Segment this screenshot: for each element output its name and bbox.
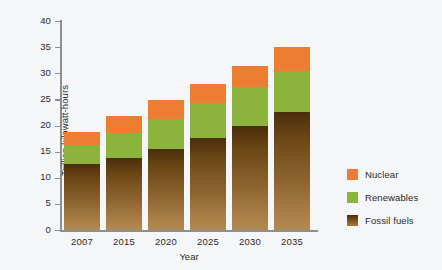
- legend-swatch-icon: [347, 215, 358, 226]
- y-tick-label: 10: [40, 171, 51, 182]
- bar-segment-fossil-fuels: [106, 158, 142, 230]
- bar-2035: [274, 47, 310, 230]
- bar-segment-renewables: [232, 87, 268, 125]
- legend-item-renewables: Renewables: [347, 189, 439, 205]
- y-tick-label: 35: [40, 41, 51, 52]
- y-tick-label: 25: [40, 93, 51, 104]
- legend-label: Nuclear: [365, 169, 398, 180]
- bar-segment-nuclear: [148, 100, 184, 119]
- y-tick-mark: [55, 204, 60, 205]
- x-tick-label-2030: 2030: [227, 236, 273, 247]
- y-tick-mark: [55, 152, 60, 153]
- bar-segment-nuclear: [64, 132, 100, 145]
- bar-segment-nuclear: [274, 47, 310, 71]
- bar-segment-fossil-fuels: [190, 138, 226, 230]
- y-tick-label: 40: [40, 15, 51, 26]
- y-tick-label: 5: [46, 197, 51, 208]
- bar-segment-fossil-fuels: [148, 149, 184, 230]
- bar-2007: [64, 132, 100, 230]
- legend-item-nuclear: Nuclear: [347, 166, 439, 182]
- chart-legend: NuclearRenewablesFossil fuels: [347, 166, 439, 235]
- x-tick-label-2007: 2007: [59, 236, 105, 247]
- y-tick-mark: [55, 21, 60, 22]
- bar-segment-renewables: [274, 71, 310, 112]
- x-tick-label-2035: 2035: [269, 236, 315, 247]
- bar-2025: [190, 84, 226, 230]
- y-axis-title-holder: Trillion kilowatt-hours: [0, 55, 24, 195]
- bar-segment-fossil-fuels: [64, 164, 100, 230]
- x-axis-line: [60, 230, 318, 232]
- y-tick-label: 0: [46, 224, 51, 235]
- bar-segment-renewables: [106, 133, 142, 158]
- bar-2030: [232, 66, 268, 230]
- stacked-bar-chart: Trillion kilowatt-hours 0510152025303540…: [0, 0, 442, 270]
- y-tick-mark: [55, 230, 60, 231]
- x-tick-label-2015: 2015: [101, 236, 147, 247]
- legend-swatch-icon: [347, 169, 358, 180]
- bar-segment-renewables: [190, 103, 226, 138]
- y-tick-mark: [55, 178, 60, 179]
- y-tick-mark: [55, 47, 60, 48]
- x-axis-title: Year: [60, 251, 318, 262]
- y-tick-mark: [55, 99, 60, 100]
- y-tick-label: 15: [40, 145, 51, 156]
- bar-segment-fossil-fuels: [274, 112, 310, 230]
- bar-segment-nuclear: [106, 116, 142, 133]
- bar-segment-fossil-fuels: [232, 126, 268, 231]
- legend-label: Renewables: [365, 192, 418, 203]
- x-tick-label-2020: 2020: [143, 236, 189, 247]
- bar-segment-nuclear: [232, 66, 268, 87]
- legend-item-fossil-fuels: Fossil fuels: [347, 212, 439, 228]
- y-tick-label: 30: [40, 67, 51, 78]
- bar-segment-renewables: [148, 119, 184, 149]
- y-tick-mark: [55, 126, 60, 127]
- y-tick-label: 20: [40, 119, 51, 130]
- legend-label: Fossil fuels: [365, 215, 414, 226]
- x-tick-label-2025: 2025: [185, 236, 231, 247]
- y-tick-mark: [55, 73, 60, 74]
- bar-2015: [106, 116, 142, 230]
- bar-2020: [148, 100, 184, 230]
- legend-swatch-icon: [347, 192, 358, 203]
- plot-area: [62, 21, 314, 230]
- bar-segment-renewables: [64, 145, 100, 163]
- bar-segment-nuclear: [190, 84, 226, 103]
